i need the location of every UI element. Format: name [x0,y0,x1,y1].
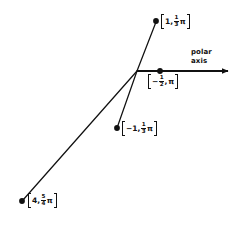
label-comma: , [170,18,173,26]
pi-symbol: π [147,125,153,133]
point-label-4-five-fourths-pi: 4 , 5 4 π [28,192,57,210]
polar-axis-label-line1: polar [191,48,212,57]
point-label-neg1-one-third-pi: −1 , 1 3 π [122,120,157,138]
bracket-left-icon [148,74,151,89]
polar-axis-label: polar axis [191,48,212,66]
polar-coordinate-figure: 1 , 1 3 π − 1 2 , π −1 , [0,0,243,229]
bracket-right-icon [154,121,157,136]
bracket-left-icon [122,121,125,136]
bracket-right-icon [175,74,178,89]
bracket-left-icon [28,193,31,208]
radius-value: −1 [126,125,138,133]
ray-to-1-one-third-pi [137,22,156,71]
angle-fraction: 5 4 [41,194,46,207]
fraction-denominator: 3 [141,129,146,135]
ray-to-4-five-fourths-pi [23,71,137,200]
point-label-1-one-third-pi: 1 , 1 3 π [161,13,190,31]
pi-symbol: π [180,18,186,26]
bracket-right-icon [54,193,57,208]
label-comma: , [138,125,141,133]
pi-symbol: π [47,197,53,205]
fraction-denominator: 2 [159,82,164,88]
point-dot-1-one-third-pi [153,18,159,24]
fraction-denominator: 4 [41,201,46,207]
bracket-right-icon [187,14,190,29]
point-label-neg-half-pi: − 1 2 , π [148,73,178,91]
minus-sign-icon: − [152,78,158,86]
radius-fraction: 1 2 [159,75,164,88]
label-comma: , [164,78,167,86]
angle-fraction: 1 3 [174,15,179,28]
pi-symbol: π [168,78,174,86]
polar-axis-label-line2: axis [191,57,212,66]
fraction-denominator: 3 [174,22,179,28]
bracket-left-icon [161,14,164,29]
angle-fraction: 1 3 [141,122,146,135]
point-dot-4-five-fourths-pi [19,198,25,204]
point-dot-neg1-one-third-pi [114,125,120,131]
label-comma: , [37,197,40,205]
